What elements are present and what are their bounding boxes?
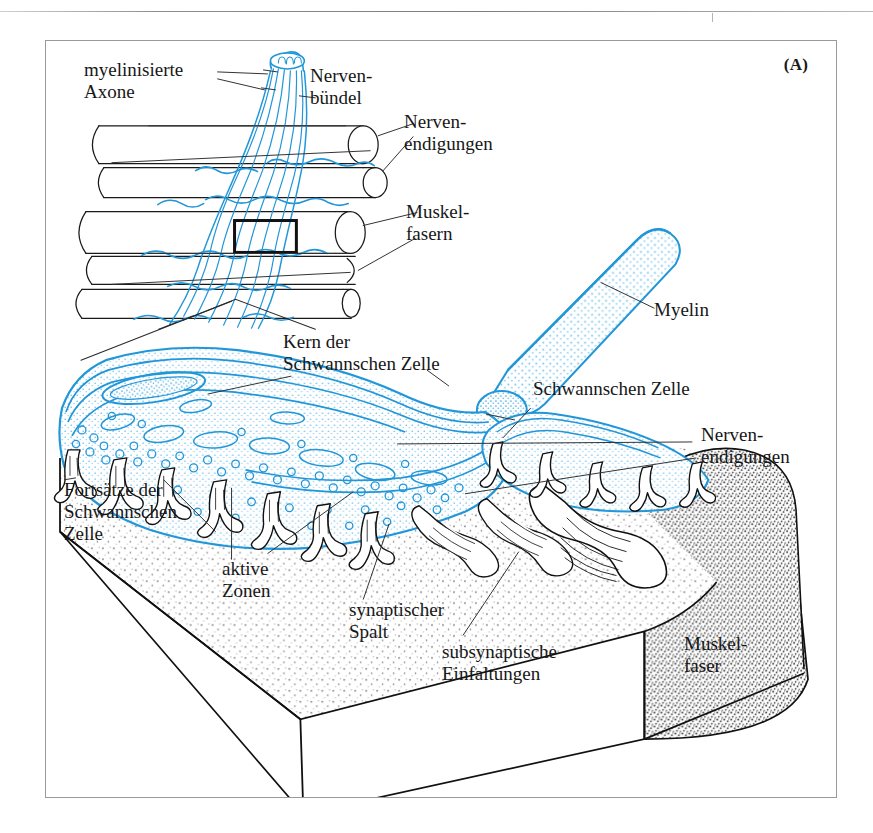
label-muskelfaser: Muskel- faser <box>684 633 747 677</box>
label-nervenendigungen-top: Nerven- endigungen <box>404 111 493 155</box>
label-muskelfasern: Muskel- fasern <box>406 201 469 245</box>
label-synaptischer-spalt: synaptischer Spalt <box>349 599 444 643</box>
label-kern-der-schwannschen-zelle: Kern der Schwannschen Zelle <box>283 331 440 375</box>
panel-letter: (A) <box>784 55 808 75</box>
label-aktive-zonen: aktive Zonen <box>222 558 271 602</box>
label-nervenendigungen-right: Nerven- endigungen <box>701 424 790 468</box>
page-header-rule <box>0 11 873 12</box>
label-schwannsche-zelle: Schwannschen Zelle <box>533 378 690 400</box>
label-fortsaetze-der-schwannschen-zelle: Fortsätze der Schwannschen Zelle <box>64 479 177 545</box>
label-subsynaptische-einfaltungen: subsynaptische Einfaltungen <box>442 641 557 685</box>
figure-frame: (A) myelinisierte Axone Nerven- bündel N… <box>45 40 837 798</box>
label-myelinisierte-axone: myelinisierte Axone <box>84 59 183 103</box>
inset-muscle-fibers <box>76 126 387 318</box>
label-nervenbuendel: Nerven- bündel <box>310 65 372 109</box>
page-header-tick <box>712 13 713 22</box>
label-myelin: Myelin <box>654 299 709 321</box>
